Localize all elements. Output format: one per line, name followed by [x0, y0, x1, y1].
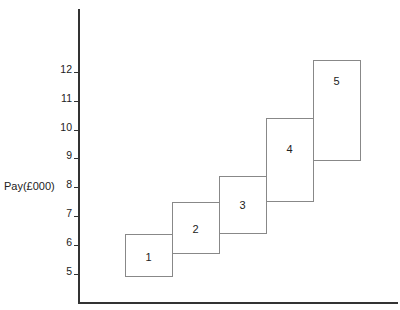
pay-band-label: 5 — [327, 75, 347, 87]
pay-band-label: 1 — [139, 251, 159, 263]
y-tick-label: 12 — [44, 63, 72, 75]
y-tick — [74, 72, 79, 73]
pay-grade-chart: Pay(£000) 56789101112 12345 — [0, 0, 400, 310]
pay-band-label: 2 — [186, 223, 206, 235]
y-tick — [74, 101, 79, 102]
y-tick-label: 5 — [44, 265, 72, 277]
x-axis — [78, 302, 398, 304]
pay-band-label: 4 — [280, 143, 300, 155]
y-tick — [74, 130, 79, 131]
y-tick — [74, 158, 79, 159]
y-tick-label: 10 — [44, 121, 72, 133]
y-tick — [74, 216, 79, 217]
pay-band-4 — [266, 118, 314, 202]
y-tick-label: 7 — [44, 207, 72, 219]
y-tick — [74, 274, 79, 275]
y-axis — [78, 9, 80, 304]
pay-band-label: 3 — [233, 199, 253, 211]
y-tick-label: 6 — [44, 236, 72, 248]
y-tick-label: 11 — [44, 92, 72, 104]
y-tick-label: 8 — [44, 178, 72, 190]
y-tick — [74, 187, 79, 188]
y-tick-label: 9 — [44, 149, 72, 161]
y-tick — [74, 245, 79, 246]
